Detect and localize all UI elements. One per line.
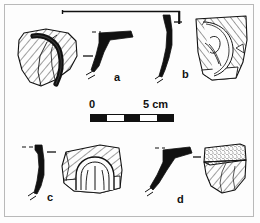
sherd-c-drawing: [62, 145, 122, 193]
sherd-drawings-layer: [0, 0, 260, 223]
figure-label-b: b: [182, 69, 189, 80]
scale-bar-segment-2: [107, 115, 123, 121]
sherd-b-drawing: [196, 16, 247, 80]
diameter-reference-line: [62, 10, 180, 24]
profile-d-drawing: [145, 147, 201, 196]
figure-label-c: c: [47, 192, 53, 203]
scale-bar-segment-4: [140, 115, 156, 121]
scale-bar-segment-3: [124, 115, 140, 121]
sherd-d-drawing: [204, 144, 246, 193]
scale-bar-segment-1: [91, 115, 107, 121]
illustration-plate: a b c d 0 5 cm: [0, 0, 260, 223]
profile-b-drawing: [155, 15, 182, 83]
figure-label-a: a: [114, 72, 120, 83]
scale-start-label: 0: [89, 99, 95, 110]
scale-end-label: 5 cm: [143, 99, 168, 110]
profile-a-drawing: [86, 31, 133, 79]
sherd-a-drawing: [18, 29, 93, 86]
scale-bar-segment-5: [157, 115, 173, 121]
scale-bar: [90, 114, 174, 122]
figure-label-d: d: [177, 194, 184, 205]
